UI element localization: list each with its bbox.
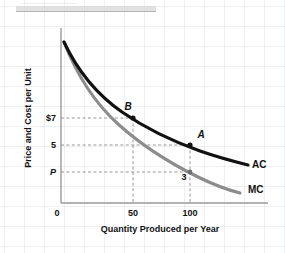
point-b-marker [130, 115, 135, 120]
point-label-a: A [196, 129, 204, 140]
point-a-marker [187, 142, 192, 147]
y-tick-label-p: P [50, 167, 57, 177]
y-tick-label-5: 5 [51, 140, 56, 150]
point-label-3: 3 [181, 172, 186, 182]
y-tick-label-7: $7 [46, 113, 56, 123]
mc-curve-label: MC [248, 184, 264, 195]
ac-curve [64, 42, 248, 165]
cost-curves-chart: B A 3 AC MC $7 5 P 0 50 100 Quantity Pro… [0, 0, 285, 253]
x-tick-label-0: 0 [54, 208, 59, 218]
x-tick-label-50: 50 [128, 208, 138, 218]
ac-curve-label: AC [252, 159, 266, 170]
y-axis-title: Price and Cost per Unit [23, 68, 33, 168]
point-label-b: B [124, 101, 131, 112]
x-tick-label-100: 100 [182, 208, 197, 218]
mc-curve [64, 42, 240, 193]
point-3-marker [188, 170, 193, 175]
axes [61, 28, 268, 203]
x-axis-title: Quantity Produced per Year [101, 224, 220, 234]
